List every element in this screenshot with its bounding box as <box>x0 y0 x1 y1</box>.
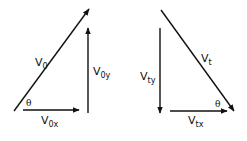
theta-label-right: θ <box>215 99 220 109</box>
v0-label: V0 <box>35 56 48 71</box>
v0x-label: V0x <box>41 114 59 129</box>
vt-label: Vt <box>201 52 212 67</box>
initial-velocity-diagram: V0 V0y V0x θ <box>14 9 111 129</box>
vtx-label: Vtx <box>188 114 204 129</box>
vty-label: Vty <box>140 70 156 85</box>
terminal-velocity-diagram: Vt Vty Vtx θ <box>140 10 234 129</box>
v0y-label: V0y <box>93 65 111 80</box>
vt-resultant-arrow <box>161 10 234 111</box>
theta-label-left: θ <box>26 98 31 108</box>
v0-resultant-arrow <box>14 9 89 111</box>
velocity-components-diagram: V0 V0y V0x θ Vt Vty Vtx θ <box>0 0 247 141</box>
